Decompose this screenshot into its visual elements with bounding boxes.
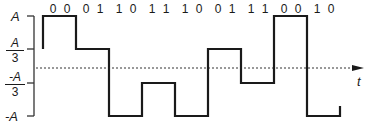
level-label-neg-a-over-3: -A 3	[5, 71, 25, 98]
bit-label: 0 1	[83, 3, 106, 15]
level-label-a: A	[11, 10, 20, 23]
fraction-denominator: 3	[6, 51, 24, 64]
bit-label: 0 0	[50, 3, 73, 15]
bit-label: 1 1	[248, 3, 271, 15]
pam-signal-waveform	[43, 16, 340, 116]
bit-label: 1 1	[149, 3, 172, 15]
arrow-head-icon	[352, 65, 364, 71]
bit-label: 1 0	[314, 3, 337, 15]
time-axis-label: t	[357, 75, 361, 88]
fraction-denominator: 3	[5, 85, 25, 98]
fraction-numerator: A	[6, 37, 24, 51]
bit-label: 0 0	[281, 3, 304, 15]
bit-label: 0 1	[215, 3, 238, 15]
y-axis	[27, 16, 34, 116]
level-label-a-over-3: A 3	[6, 37, 24, 64]
bit-label: 1 0	[182, 3, 205, 15]
waveform-diagram	[0, 0, 377, 128]
level-label-neg-a: -A	[5, 110, 18, 123]
bit-label: 1 0	[116, 3, 139, 15]
time-axis	[36, 65, 364, 71]
fraction-numerator: -A	[5, 71, 25, 85]
